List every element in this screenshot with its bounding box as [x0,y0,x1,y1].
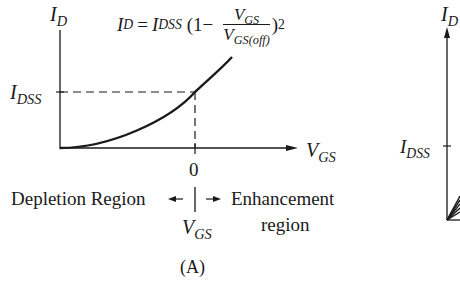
divider-vgs-label: VGS [182,217,212,237]
idss-label: IDSS [10,82,41,102]
panel-b-y-axis-label: ID [441,4,458,24]
idss-label-sub: DSS [17,91,42,107]
panel-b-y-label-sub: D [448,13,458,29]
eq-open: (1− [187,15,214,34]
panel-caption: (A) [180,258,205,276]
eq-numerator: VGS [223,6,269,25]
y-axis-label-sub: D [57,13,67,29]
divider-vgs-main: V [182,216,194,238]
zero-tick-label: 0 [189,160,199,179]
depletion-region-label: Depletion Region [11,189,146,208]
panel-b-idss-sub: DSS [406,146,430,161]
transfer-curve [60,57,232,148]
x-axis-label: VGS [306,140,336,160]
transfer-equation: ID = IDSS (1− VGS VGS(off) )2 [117,6,285,43]
x-axis-label-sub: GS [318,149,336,165]
panel-b-y-label-main: I [441,3,448,25]
y-axis-label-main: I [50,3,57,25]
idss-label-main: I [10,81,17,103]
x-axis-arrow-icon [286,145,298,151]
enhancement-region-label-line1: Enhancement [231,189,334,208]
panel-b-idss-label: IDSS [400,137,430,156]
eq-equals: = [137,15,148,34]
panel-b-curves [447,196,460,220]
right-arrow-icon [213,196,221,202]
enhancement-region-label-line2: region [261,215,310,234]
left-arrow-icon [168,196,176,202]
x-axis-label-main: V [306,139,318,161]
eq-denominator: VGS(off) [223,25,269,43]
eq-fraction: VGS VGS(off) [223,6,269,43]
y-axis-label: ID [50,4,67,24]
divider-vgs-sub: GS [194,226,212,242]
eq-exponent: 2 [278,18,285,32]
